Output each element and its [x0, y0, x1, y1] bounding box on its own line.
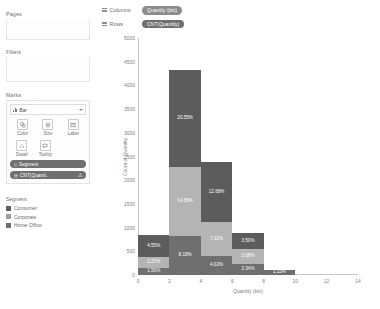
- y-axis-tick: 5000: [124, 36, 135, 41]
- bar-segment-label: 12.68%: [209, 190, 225, 195]
- histogram-plot[interactable]: Count of Quantity Quantity (bin) 0500100…: [138, 38, 358, 275]
- left-sidebar: Pages Filters Marks Bar: [0, 0, 96, 309]
- bar-segment[interactable]: 20.55%: [169, 70, 200, 167]
- bar-segment[interactable]: 3.50%: [232, 233, 263, 250]
- x-axis-tick: 10: [292, 279, 297, 284]
- bar-segment[interactable]: 7.11%: [201, 222, 232, 256]
- detail-icon: [16, 140, 27, 151]
- columns-pill-quantity-bin[interactable]: Quantity (bin): [142, 6, 182, 15]
- rows-pill-cnt-quantity[interactable]: CNT(Quantity): [142, 20, 184, 29]
- marks-detail-button[interactable]: Detail: [10, 140, 34, 157]
- bar-segment[interactable]: 12.68%: [201, 162, 232, 222]
- filters-label: Filters: [6, 49, 90, 55]
- bar-segment-label: 1.56%: [147, 269, 160, 274]
- marks-color-button[interactable]: Color: [10, 119, 35, 136]
- bar-stack[interactable]: 2.34%3.08%3.50%: [232, 233, 263, 275]
- bar-segment[interactable]: 2.27%: [138, 257, 169, 268]
- size-icon: [42, 119, 53, 130]
- bar-segment[interactable]: 4.02%: [201, 256, 232, 275]
- bar-segment[interactable]: 8.19%: [169, 236, 200, 275]
- y-axis-tick: 0: [132, 273, 135, 278]
- bar-stack[interactable]: 8.19%14.58%20.55%: [169, 70, 200, 275]
- legend-title: Segment: [6, 196, 90, 202]
- bar-stack[interactable]: 1.56%2.27%4.55%: [138, 235, 169, 275]
- bar-segment-label: 3.08%: [241, 254, 254, 259]
- marks-size-button[interactable]: Size: [35, 119, 60, 136]
- y-axis-tick: 1500: [124, 201, 135, 206]
- y-axis-tick: 1000: [124, 225, 135, 230]
- y-axis-tick: 2000: [124, 178, 135, 183]
- legend-item-consumer[interactable]: Consumer: [6, 205, 90, 211]
- marks-pill-label-label: CNT(Quanti..: [20, 173, 48, 178]
- legend-item-corporate[interactable]: Corporate: [6, 214, 90, 220]
- bar-segment[interactable]: 3.08%: [232, 249, 263, 264]
- columns-label: Columns: [110, 7, 131, 13]
- viz-pane: Columns Quantity (bin) Rows CNT(Quantity…: [96, 0, 380, 309]
- bar-segment-label: 2.34%: [241, 267, 254, 272]
- bar-segment-label: 20.55%: [177, 116, 193, 121]
- pages-well[interactable]: [6, 19, 90, 40]
- marks-label: Marks: [6, 92, 90, 98]
- y-axis-tick: 4500: [124, 59, 135, 64]
- marks-pill-color-segment[interactable]: ◴ Segment: [10, 160, 86, 168]
- color-pill-icon: ◴: [14, 162, 17, 167]
- bar-segment[interactable]: 14.58%: [169, 167, 200, 236]
- bar-segment-label: 14.58%: [177, 199, 193, 204]
- marks-pill-label-cnt-quantity[interactable]: ▤ CNT(Quanti.. ⚠: [10, 171, 86, 179]
- rows-icon: [102, 22, 107, 26]
- columns-shelf-name: Columns: [102, 7, 136, 13]
- rows-shelf[interactable]: Rows CNT(Quantity): [102, 20, 372, 29]
- filters-shelf[interactable]: Filters: [0, 49, 96, 82]
- marks-color-label: Color: [17, 131, 28, 136]
- y-axis-tick: 3000: [124, 130, 135, 135]
- legend-swatch: [6, 206, 11, 211]
- marks-properties-row-1: Color Size Label: [10, 119, 86, 136]
- x-axis-tick: 14: [355, 279, 360, 284]
- bar-stack[interactable]: 4.02%7.11%12.68%: [201, 162, 232, 275]
- bar-segment-label: 4.02%: [210, 263, 223, 268]
- tableau-workbook: Pages Filters Marks Bar: [0, 0, 380, 309]
- legend-item-label: Home Office: [14, 222, 42, 228]
- segment-legend: Segment Consumer Corporate Home Office: [0, 196, 96, 231]
- mark-type-value: Bar: [19, 107, 27, 113]
- y-axis-tick: 500: [127, 249, 135, 254]
- bar-segment-label: 2.27%: [147, 260, 160, 265]
- filters-well[interactable]: [6, 57, 90, 82]
- color-icon: [17, 119, 28, 130]
- bar-segment-label: 1.15%: [273, 270, 286, 275]
- x-axis-tick: 6: [231, 279, 234, 284]
- pages-shelf[interactable]: Pages: [0, 11, 96, 40]
- mark-type-dropdown[interactable]: Bar: [10, 104, 86, 115]
- marks-tooltip-label: Tooltip: [39, 152, 52, 157]
- bar-segment-label: 7.11%: [210, 237, 223, 242]
- tooltip-icon: [40, 140, 51, 151]
- bar-segment[interactable]: 1.15%: [264, 270, 295, 275]
- y-axis-tick: 2500: [124, 154, 135, 159]
- bar-stack[interactable]: 1.15%: [264, 270, 295, 275]
- warning-icon: ⚠: [78, 173, 82, 178]
- x-axis-tick: 12: [324, 279, 329, 284]
- bar-segment[interactable]: 2.34%: [232, 264, 263, 275]
- legend-item-label: Corporate: [14, 214, 36, 220]
- columns-icon: [102, 8, 107, 12]
- legend-item-home-office[interactable]: Home Office: [6, 222, 90, 228]
- marks-card: Bar Color Size: [6, 100, 90, 184]
- marks-label-label: Label: [68, 131, 79, 136]
- marks-properties-row-2: Detail Tooltip: [10, 140, 57, 157]
- x-axis-tick: 4: [199, 279, 202, 284]
- bar-segment[interactable]: 4.55%: [138, 235, 169, 257]
- chevron-down-icon: [79, 109, 83, 111]
- x-axis-title: Quantity (bin): [233, 288, 263, 294]
- x-axis-tick: 8: [262, 279, 265, 284]
- bar-segment-label: 8.19%: [179, 253, 192, 258]
- marks-pill-color-label: Segment: [19, 162, 38, 167]
- marks-label-button[interactable]: Label: [61, 119, 86, 136]
- columns-shelf[interactable]: Columns Quantity (bin): [102, 6, 372, 15]
- marks-tooltip-button[interactable]: Tooltip: [34, 140, 58, 157]
- legend-swatch: [6, 214, 11, 219]
- bar-chart-icon: [13, 107, 17, 112]
- bar-segment[interactable]: 1.56%: [138, 268, 169, 275]
- x-axis-tick: 2: [168, 279, 171, 284]
- pages-label: Pages: [6, 11, 90, 17]
- legend-swatch: [6, 223, 11, 228]
